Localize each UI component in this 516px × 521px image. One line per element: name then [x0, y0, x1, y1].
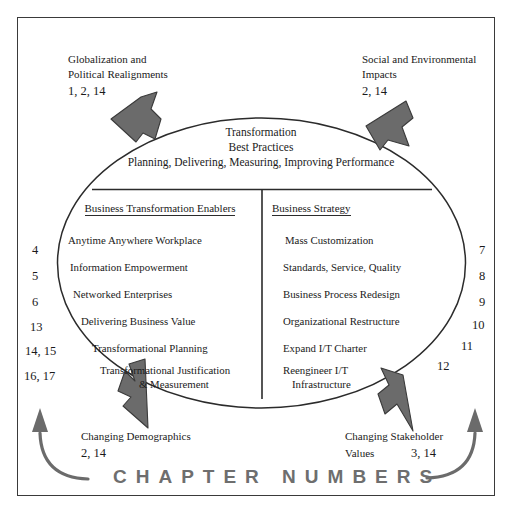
strategy-item-2: Standards, Service, Quality: [283, 261, 401, 273]
enabler-item-6-cont: & Measurement: [139, 378, 209, 390]
callout-top-right: Social and Environmental Impacts 2, 14: [362, 52, 476, 99]
center-title-line3: Planning, Delivering, Measuring, Improvi…: [106, 155, 416, 170]
callout-top-left-line2: Political Realignments: [68, 67, 168, 82]
column-enablers: Business Transformation Enablers: [62, 198, 258, 216]
callout-bottom-right-line2: Values: [345, 447, 374, 459]
enabler-item-1: Anytime Anywhere Workplace: [68, 234, 202, 246]
callout-top-right-line2: Impacts: [362, 67, 476, 82]
enabler-item-3: Networked Enterprises: [73, 288, 172, 300]
right-number-3: 9: [479, 295, 485, 310]
column-enablers-header: Business Transformation Enablers: [85, 202, 236, 216]
left-number-6: 16, 17: [24, 369, 55, 384]
callout-top-right-line1: Social and Environmental: [362, 52, 476, 67]
center-title-block: Transformation Best Practices Planning, …: [106, 125, 416, 170]
right-number-6: 12: [437, 359, 450, 374]
chapter-numbers-label: CHAPTER NUMBERS: [113, 466, 441, 488]
left-number-5: 14, 15: [25, 344, 56, 359]
strategy-item-6: Reengineer I/T: [283, 364, 348, 376]
callout-bottom-right-line1: Changing Stakeholder: [345, 429, 443, 444]
diagram-canvas: Transformation Best Practices Planning, …: [0, 0, 516, 521]
column-strategy: Business Strategy: [272, 198, 351, 216]
callout-top-left: Globalization and Political Realignments…: [68, 52, 168, 99]
left-number-1: 4: [32, 243, 38, 258]
center-title-line2: Best Practices: [106, 140, 416, 155]
strategy-item-3: Business Process Redesign: [283, 288, 400, 300]
strategy-item-6-cont: Infrastructure: [292, 378, 351, 390]
callout-bottom-right: Changing Stakeholder Values 3, 14: [345, 429, 443, 461]
callout-top-left-numbers: 1, 2, 14: [68, 84, 168, 99]
right-number-4: 10: [472, 318, 485, 333]
left-number-4: 13: [30, 320, 43, 335]
right-number-2: 8: [479, 269, 485, 284]
callout-bottom-left: Changing Demographics 2, 14: [81, 429, 191, 461]
enabler-item-2: Information Empowerment: [70, 261, 188, 273]
center-title-line1: Transformation: [106, 125, 416, 140]
enabler-item-6: Transformational Justification: [100, 364, 230, 376]
callout-bottom-left-line1: Changing Demographics: [81, 429, 191, 444]
left-number-3: 6: [32, 295, 38, 310]
enabler-item-4: Delivering Business Value: [81, 315, 195, 327]
strategy-item-4: Organizational Restructure: [283, 315, 399, 327]
callout-top-left-line1: Globalization and: [68, 52, 168, 67]
callout-bottom-right-numbers: 3, 14: [411, 446, 436, 460]
callout-bottom-left-numbers: 2, 14: [81, 446, 191, 461]
right-number-5: 11: [461, 339, 473, 354]
column-strategy-header: Business Strategy: [272, 202, 351, 216]
strategy-item-5: Expand I/T Charter: [283, 342, 367, 354]
strategy-item-1: Mass Customization: [285, 234, 373, 246]
left-number-2: 5: [32, 269, 38, 284]
enabler-item-5: Transformational Planning: [92, 342, 208, 354]
callout-top-right-numbers: 2, 14: [362, 84, 476, 99]
right-number-1: 7: [479, 243, 485, 258]
